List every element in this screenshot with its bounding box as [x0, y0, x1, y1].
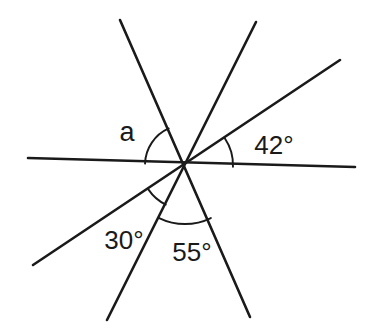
steep-line-left-top	[120, 20, 250, 317]
arc-angle-30	[149, 190, 166, 205]
angle-diagram: a 42° 30° 55°	[0, 0, 369, 333]
label-angle-30: 30°	[104, 227, 143, 253]
steep-line-right-top	[107, 22, 256, 320]
geometry-canvas	[0, 0, 369, 333]
shallow-line	[33, 60, 340, 265]
arc-angle-55	[159, 218, 211, 224]
label-angle-42: 42°	[254, 132, 293, 158]
arc-unknown-angle	[145, 128, 169, 163]
lines-group	[28, 20, 355, 320]
label-unknown-angle: a	[119, 119, 134, 146]
label-angle-55: 55°	[172, 239, 211, 265]
